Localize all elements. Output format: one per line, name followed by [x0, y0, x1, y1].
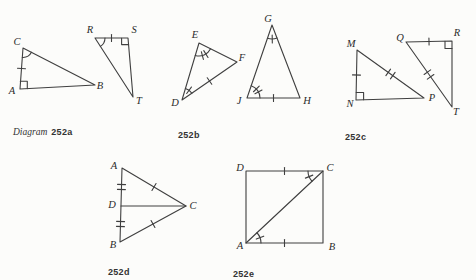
caption-252a-number: 252a — [51, 127, 72, 137]
vertex-label-a-252a: A — [9, 86, 15, 97]
vertex-label-d-252e: D — [236, 163, 244, 174]
triangle-abc-outline — [20, 48, 95, 89]
caption-252c-number: 252c — [345, 132, 366, 142]
side-tick-mp-1 — [386, 69, 391, 76]
caption-252a: Diagram252a — [13, 122, 73, 138]
vertex-label-d-252d: D — [108, 200, 116, 211]
diagram-252a — [18, 35, 133, 98]
side-tick-bc — [151, 220, 155, 227]
vertex-label-t-252a: T — [136, 96, 142, 107]
vertex-label-b-252e: B — [329, 242, 335, 253]
vertex-label-r-252c: R — [454, 28, 460, 39]
geometry-diagrams-canvas — [0, 0, 476, 280]
side-tick-df — [207, 78, 212, 85]
angle-arc-e-tick-1 — [204, 51, 208, 58]
right-angle-marker-n — [356, 93, 363, 100]
right-angle-marker-s — [122, 38, 129, 44]
diagram-252c — [353, 38, 453, 107]
caption-252d: 252d — [108, 262, 130, 278]
vertex-label-e-252b: E — [192, 30, 198, 41]
vertex-label-g-252b: G — [264, 14, 272, 25]
caption-252b: 252b — [178, 125, 200, 141]
caption-252b-number: 252b — [178, 130, 200, 140]
vertex-label-b-252d: B — [110, 240, 116, 251]
angle-arc-c — [22, 52, 31, 57]
vertex-label-j-252b: J — [237, 96, 242, 107]
angle-arc-e — [195, 49, 210, 56]
angle-arc-j-tick-2 — [255, 90, 262, 94]
diagonal-ac — [246, 171, 323, 243]
textbook-figure-page: C A B R S T E F D G J H M N P Q R T A D … — [0, 0, 476, 280]
right-angle-marker-r — [445, 41, 452, 48]
right-angle-marker-a — [20, 81, 27, 88]
vertex-label-d-252b: D — [171, 98, 179, 109]
vertex-label-a-252d: A — [111, 161, 117, 172]
caption-252d-number: 252d — [108, 267, 130, 277]
side-tick-mp-2 — [390, 72, 395, 79]
side-tick-ac — [152, 184, 156, 191]
vertex-label-t-252c: T — [453, 107, 459, 118]
vertex-label-c-252d: C — [189, 201, 196, 212]
triangle-mnp-outline — [356, 50, 424, 100]
caption-252e-number: 252e — [233, 269, 254, 279]
side-tick-qt-2 — [427, 74, 434, 79]
vertex-label-n-252c: N — [346, 99, 353, 110]
vertex-label-m-252c: M — [347, 39, 356, 50]
angle-arc-d-tick — [187, 87, 192, 93]
vertex-label-b-252a: B — [97, 81, 103, 92]
triangle-abc-252d-outline — [120, 168, 186, 242]
caption-252e: 252e — [233, 264, 254, 280]
vertex-label-c-252e: C — [326, 163, 333, 174]
diagram-252b — [182, 25, 300, 102]
side-tick-ca — [18, 68, 26, 69]
diagram-252e — [246, 168, 323, 247]
vertex-label-f-252b: F — [239, 53, 245, 64]
diagram-252d — [116, 168, 186, 242]
vertex-label-p-252c: P — [429, 93, 435, 104]
vertex-label-h-252b: H — [303, 96, 311, 107]
vertex-label-r-252a: R — [87, 25, 93, 36]
caption-252c: 252c — [345, 127, 366, 143]
caption-252a-word: Diagram — [13, 127, 47, 137]
side-tick-qt-1 — [424, 70, 431, 75]
vertex-label-q-252c: Q — [396, 33, 404, 44]
vertex-label-c-252a: C — [13, 37, 20, 48]
vertex-label-a-252e: A — [237, 241, 243, 252]
angle-arc-r — [100, 38, 105, 46]
vertex-label-s-252a: S — [131, 25, 136, 36]
